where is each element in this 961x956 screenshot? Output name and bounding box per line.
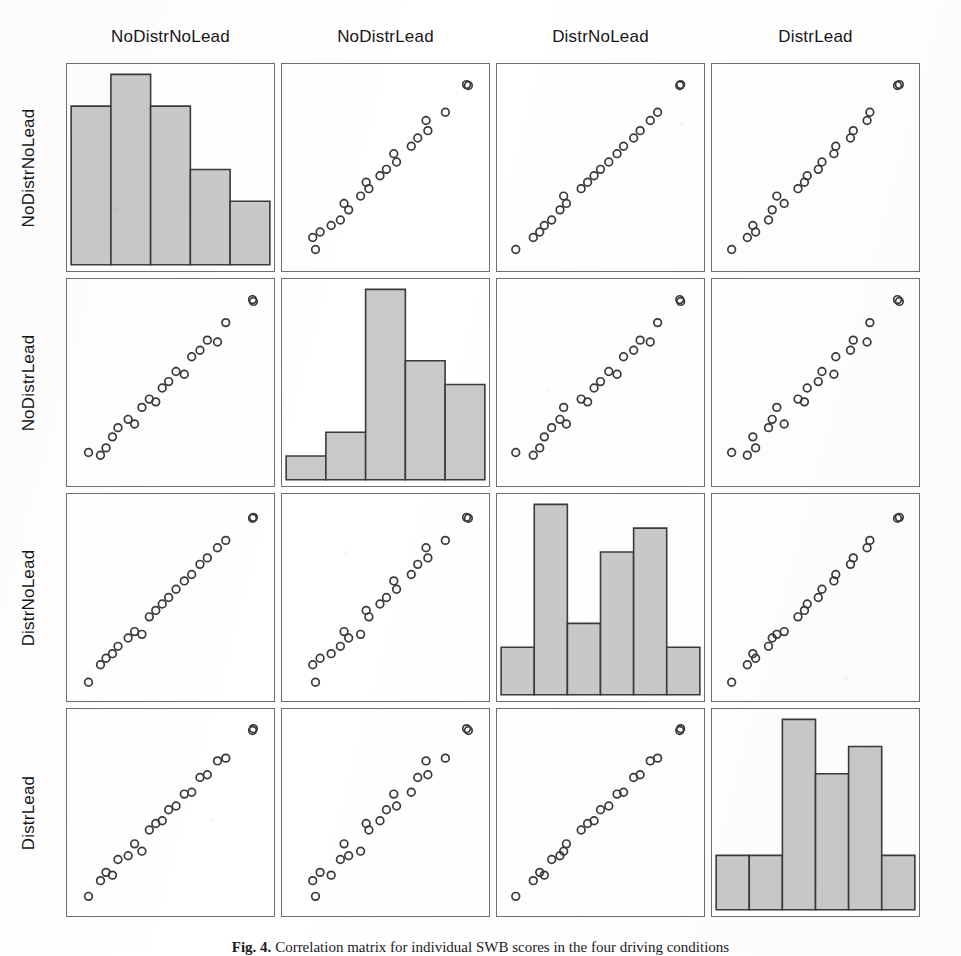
scatter-point (414, 774, 422, 782)
scatter-panel-nodistrnolead-vs-distrlead (66, 708, 275, 917)
caption-label: Fig. 4. (232, 939, 272, 955)
scatter-point (654, 319, 662, 327)
scatter-point (376, 600, 384, 608)
scatter-point (393, 802, 401, 810)
scatter-point (97, 451, 105, 459)
scatter-point (590, 384, 598, 392)
scatter-point (85, 449, 93, 457)
column-header-nodistrlead: NoDistrLead (281, 27, 490, 47)
scatter-point (316, 228, 324, 236)
scatter-point (165, 806, 173, 814)
histogram-bar (749, 855, 782, 909)
scatter-panel-nodistrlead-vs-distrnolead (281, 493, 490, 702)
scatter-point (512, 893, 520, 901)
scatter-panel-nodistrnolead-vs-distrnolead (66, 493, 275, 702)
scatter-point (422, 757, 430, 765)
scatter-point (768, 416, 776, 424)
scatter-point (605, 802, 613, 810)
scatter-point (512, 449, 520, 457)
scatter-point (728, 246, 736, 254)
scatter-point (383, 166, 391, 174)
scatter-point (357, 631, 365, 639)
scatter-point (818, 585, 826, 593)
scatter-point (584, 178, 592, 186)
scatter-point (636, 336, 644, 344)
scatter-point (180, 577, 188, 585)
scatter-point (896, 298, 904, 306)
scatter-point (138, 404, 146, 412)
scatter-panel-distrnolead-vs-distrlead (496, 708, 705, 917)
scatter-point (780, 420, 788, 428)
scatter-point (85, 678, 93, 686)
scatter-point (145, 613, 153, 621)
scatter-point (577, 826, 585, 834)
scatter-point (424, 127, 432, 135)
scatter-point (590, 172, 598, 180)
scatter-point (172, 585, 180, 593)
scatter-point (165, 594, 173, 602)
scatter-point (512, 246, 520, 254)
scatter-point (744, 661, 752, 669)
histogram-bar (230, 201, 270, 264)
scatter-point (442, 108, 450, 116)
histogram-bar (882, 855, 915, 909)
scatter-point (109, 650, 117, 658)
scatter-point (188, 788, 196, 796)
scatter-point (563, 840, 571, 848)
histogram-bar (286, 456, 326, 480)
histogram-bar (567, 623, 600, 694)
scatter-point (214, 544, 222, 552)
scatter-point (780, 200, 788, 208)
scatter-point (794, 185, 802, 193)
scatter-point (814, 166, 822, 174)
scatter-point (654, 108, 662, 116)
histogram-bar (634, 528, 667, 695)
scatter-point (540, 222, 548, 230)
histogram-bar (501, 647, 534, 695)
scatter-point (414, 561, 422, 569)
scatter-point (863, 338, 871, 346)
scatter-point (327, 871, 335, 879)
histogram-bar (405, 361, 445, 480)
histogram-bar (534, 504, 567, 694)
scatter-point (204, 771, 212, 779)
scatter-point (97, 661, 105, 669)
scatter-point (613, 370, 621, 378)
scatter-point (222, 319, 230, 327)
scatter-point (407, 142, 415, 150)
scatter-point (152, 607, 160, 615)
scatter-point (529, 877, 537, 885)
scatter-point (646, 338, 654, 346)
scatter-point (188, 571, 196, 579)
scatter-point (540, 433, 548, 441)
scatter-point (424, 554, 432, 562)
scatter-point (376, 817, 384, 825)
scatter-point (393, 585, 401, 593)
scatter-point (577, 185, 585, 193)
scatter-point (204, 554, 212, 562)
scatter-point (214, 757, 222, 765)
scatter-point (847, 134, 855, 142)
scatter-point (636, 127, 644, 135)
scatter-panel-distrlead-vs-nodistrlead (711, 278, 920, 487)
scatter-point (383, 806, 391, 814)
scatter-point (102, 444, 110, 452)
scatter-point (646, 757, 654, 765)
scatter-point (563, 200, 571, 208)
scatter-point (556, 206, 564, 214)
scatter-point (597, 166, 605, 174)
scatter-point (773, 404, 781, 412)
scatter-point (222, 537, 230, 545)
scatter-point (728, 449, 736, 457)
histogram-bar (667, 647, 700, 695)
scatter-point (847, 346, 855, 354)
scatter-point (803, 384, 811, 392)
scatter-point (407, 571, 415, 579)
histogram-bar (326, 432, 366, 480)
caption-text: Correlation matrix for individual SWB sc… (275, 939, 729, 955)
scatter-point (327, 222, 335, 230)
scatter-point (390, 150, 398, 158)
scatter-point (830, 370, 838, 378)
row-header-distrlead: DistrLead (18, 708, 38, 917)
scatter-point (131, 420, 139, 428)
